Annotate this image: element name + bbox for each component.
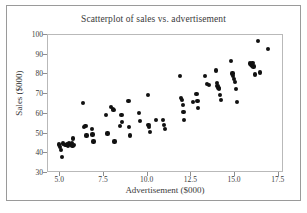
scatter-point: [217, 87, 221, 91]
scatter-point: [104, 113, 108, 117]
scatter-point: [128, 133, 132, 137]
scatter-point: [90, 132, 94, 136]
scatter-point: [154, 118, 158, 122]
scatter-point: [180, 98, 184, 102]
y-tick-label: 30: [36, 168, 44, 177]
scatter-point: [181, 110, 185, 114]
y-tick-label: 90: [36, 49, 44, 58]
scatter-point: [148, 130, 152, 134]
scatter-point: [81, 101, 85, 105]
scatter-point: [111, 108, 115, 112]
scatter-point: [181, 103, 185, 107]
scatter-point: [196, 106, 200, 110]
scatter-point: [146, 93, 150, 97]
y-tick-label: 80: [36, 69, 44, 78]
scatter-point: [163, 127, 167, 131]
scatter-point: [235, 100, 239, 104]
chart-title: Scatterplot of sales vs. advertisement: [0, 14, 307, 24]
scatter-point: [118, 124, 122, 128]
scatter-point: [229, 59, 233, 63]
scatter-point: [105, 131, 109, 135]
scatter-point: [203, 74, 207, 78]
x-tick-label: 10.0: [140, 175, 153, 184]
scatter-point: [233, 80, 237, 84]
scatter-point: [147, 125, 151, 129]
x-tick-label: 17.5: [271, 175, 284, 184]
scatter-point: [178, 74, 182, 78]
y-tick-label: 40: [36, 148, 44, 157]
y-tick-label: 100: [32, 30, 43, 39]
scatter-point: [119, 113, 123, 117]
scatter-point: [112, 139, 116, 143]
scatter-point: [219, 98, 223, 102]
x-tick-label: 5.0: [55, 175, 64, 184]
scatter-point: [182, 118, 186, 122]
scatter-point: [137, 111, 141, 115]
scatter-point: [72, 143, 76, 147]
scatter-point: [60, 155, 64, 159]
scatter-point: [120, 120, 124, 124]
scatterplot-figure: Scatterplot of sales vs. advertisement S…: [0, 0, 307, 213]
scatter-point: [195, 99, 199, 103]
scatter-point: [214, 68, 218, 72]
scatter-point: [126, 99, 130, 103]
x-tick-label: 15.0: [227, 175, 240, 184]
scatter-point: [127, 125, 131, 129]
y-axis-tick-labels: 30405060708090100: [22, 34, 43, 172]
scatter-point: [218, 93, 222, 97]
scatter-point: [83, 124, 87, 128]
scatter-point: [138, 119, 142, 123]
scatter-point: [207, 83, 211, 87]
scatter-point: [251, 64, 255, 68]
scatter-point: [253, 72, 257, 76]
scatter-point: [234, 87, 238, 91]
scatter-point: [194, 92, 198, 96]
scatter-points-layer: [48, 35, 282, 171]
scatter-point: [258, 70, 262, 74]
y-tick-label: 60: [36, 108, 44, 117]
x-tick-label: 7.5: [98, 175, 107, 184]
x-tick-label: 12.5: [184, 175, 197, 184]
scatter-point: [59, 148, 63, 152]
scatter-point: [161, 118, 165, 122]
scatter-point: [91, 139, 95, 143]
x-axis-title: Advertisement ($000): [47, 185, 283, 195]
plot-area: [47, 34, 283, 172]
scatter-point: [71, 136, 75, 140]
y-tick-label: 50: [36, 128, 44, 137]
scatter-point: [256, 39, 260, 43]
scatter-point: [266, 47, 270, 51]
scatter-point: [84, 133, 88, 137]
y-tick-label: 70: [36, 89, 44, 98]
scatter-point: [90, 127, 94, 131]
